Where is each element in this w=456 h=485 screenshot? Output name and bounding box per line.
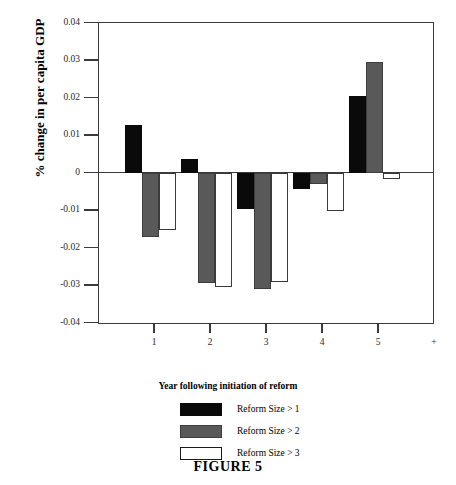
bar: [198, 173, 215, 284]
bar: [142, 173, 159, 238]
bar: [237, 173, 254, 209]
y-axis-tick-label: 0: [36, 167, 80, 177]
figure-caption: FIGURE 5: [0, 459, 456, 475]
y-axis-tick: [84, 284, 98, 285]
bar: [125, 125, 142, 173]
bar: [293, 173, 310, 190]
x-axis-tick: [153, 324, 154, 333]
x-axis-tick: [265, 324, 266, 333]
bar: [349, 96, 366, 173]
y-axis-tick-label: -0.03: [36, 279, 80, 289]
y-axis-tick: [84, 247, 98, 248]
y-axis-tick-label: 0.01: [36, 129, 80, 139]
bar: [310, 173, 327, 184]
y-axis-tick-label: -0.01: [36, 204, 80, 214]
y-axis-tick-label: 0.04: [36, 17, 80, 27]
bar: [366, 62, 383, 173]
legend-label: Reform Size > 2: [237, 426, 300, 436]
legend-item[interactable]: Reform Size > 1: [180, 398, 430, 420]
bar: [383, 173, 400, 180]
y-axis-tick: [84, 134, 98, 135]
x-axis-tick: [377, 324, 378, 333]
y-axis-tick-label: -0.04: [36, 317, 80, 327]
x-axis-plus-label: +: [419, 337, 449, 347]
legend-label: Reform Size > 1: [237, 404, 300, 414]
y-axis-tick-label: 0.02: [36, 92, 80, 102]
bar: [327, 173, 344, 211]
x-axis-tick-label: 2: [195, 337, 225, 347]
y-axis-tick: [84, 172, 98, 173]
x-axis-tick: [321, 324, 322, 333]
y-axis-tick-label: -0.02: [36, 242, 80, 252]
bar: [271, 173, 288, 283]
legend-swatch: [180, 403, 222, 416]
bar: [254, 173, 271, 289]
legend-title: Year following initiation of reform: [0, 381, 456, 391]
figure-container: % change in per capita GDP 0.040.030.020…: [0, 0, 456, 485]
bar: [181, 159, 198, 172]
y-axis-tick: [84, 322, 98, 323]
x-axis-tick-label: 5: [363, 337, 393, 347]
legend-label: Reform Size > 3: [237, 448, 300, 458]
bars-layer: [98, 22, 434, 324]
x-axis-tick-label: 4: [307, 337, 337, 347]
bar: [159, 173, 176, 230]
y-axis-tick: [84, 209, 98, 210]
y-axis-tick-label: 0.03: [36, 54, 80, 64]
y-axis-tick: [84, 97, 98, 98]
x-axis-tick-label: 1: [139, 337, 169, 347]
y-axis-tick: [84, 22, 98, 23]
x-axis-tick-label: 3: [251, 337, 281, 347]
bar: [215, 173, 232, 287]
legend-swatch: [180, 425, 222, 438]
legend: Reform Size > 1Reform Size > 2Reform Siz…: [180, 398, 430, 464]
y-axis-tick: [84, 59, 98, 60]
legend-swatch: [180, 447, 222, 460]
x-axis-tick: [209, 324, 210, 333]
legend-item[interactable]: Reform Size > 2: [180, 420, 430, 442]
